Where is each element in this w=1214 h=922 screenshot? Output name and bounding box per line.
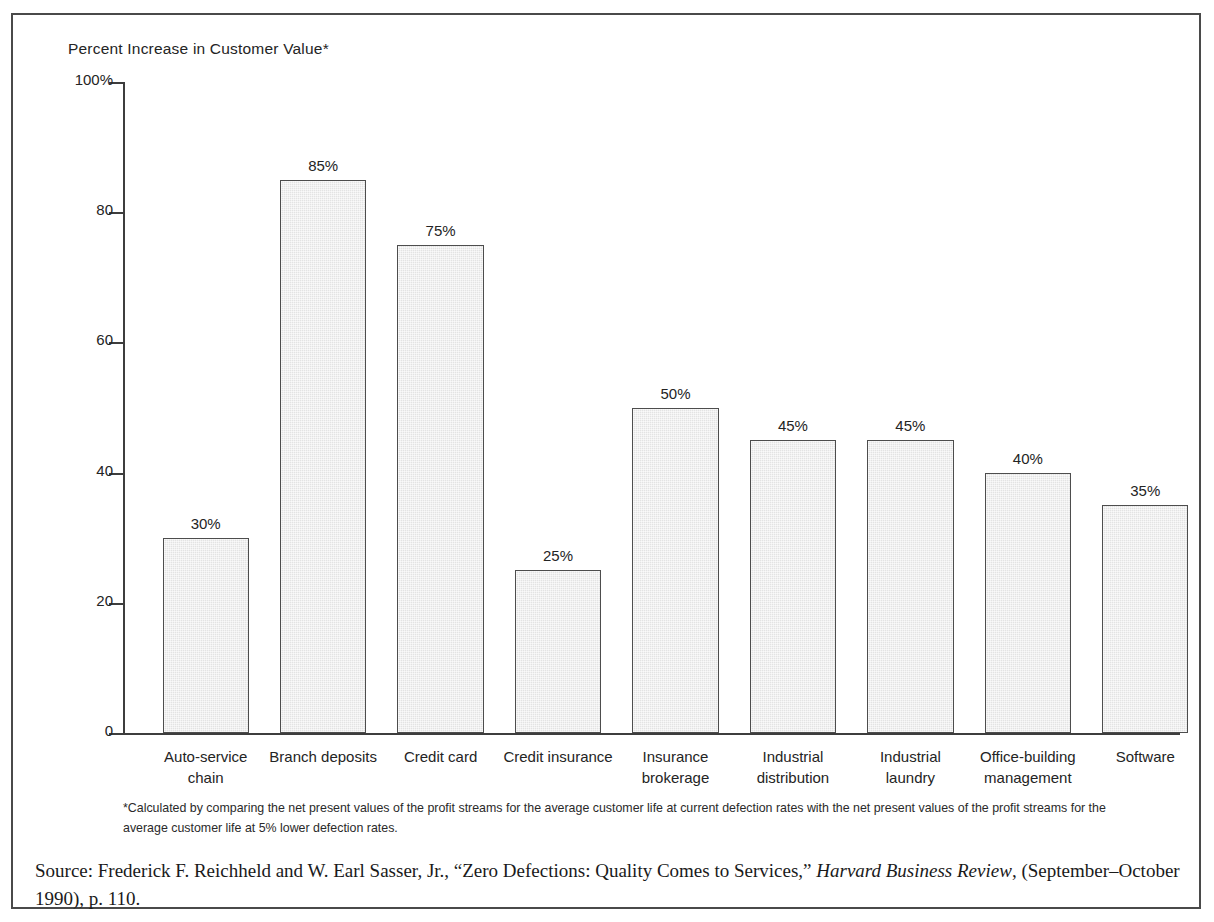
chart-title: Percent Increase in Customer Value* [68, 40, 329, 58]
category-label-line: Branch deposits [258, 746, 387, 767]
bar [163, 538, 249, 733]
category-label-line: laundry [846, 767, 975, 788]
x-axis-line [123, 733, 1180, 735]
category-label-line: Software [1081, 746, 1210, 767]
category-label-line: Auto-service [141, 746, 270, 767]
category-label-line: management [963, 767, 1092, 788]
y-axis-tick-label: 40 [96, 462, 113, 479]
category-label-line: Credit card [376, 746, 505, 767]
category-label: Credit card [376, 746, 505, 767]
bar-column: 30% [163, 82, 249, 733]
bar-value-label: 75% [397, 222, 483, 239]
bar [867, 440, 953, 733]
bar-column: 35% [1102, 82, 1188, 733]
category-label-line: Office-building [963, 746, 1092, 767]
category-label-line: brokerage [611, 767, 740, 788]
y-axis-tick-label: 100% [75, 71, 113, 88]
chart-plot-area: 100%806040200 30%85%75%25%50%45%45%40%35… [123, 82, 1183, 733]
source-prefix: Source: Frederick F. Reichheld and W. Ea… [35, 860, 816, 881]
bar-value-label: 25% [515, 547, 601, 564]
footnote: *Calculated by comparing the net present… [123, 798, 1143, 838]
source-publication: Harvard Business Review [816, 860, 1012, 881]
category-label: Credit insurance [493, 746, 622, 767]
category-label-line: Industrial [728, 746, 857, 767]
category-label-line: Insurance [611, 746, 740, 767]
bar [280, 180, 366, 733]
bar-column: 45% [750, 82, 836, 733]
category-label-line: Industrial [846, 746, 975, 767]
category-label-line: distribution [728, 767, 857, 788]
bar-column: 85% [280, 82, 366, 733]
bar-column: 75% [397, 82, 483, 733]
category-label: Industrialdistribution [728, 746, 857, 788]
category-label: Branch deposits [258, 746, 387, 767]
bar-column: 45% [867, 82, 953, 733]
bar [397, 245, 483, 733]
bar [515, 570, 601, 733]
bar-value-label: 30% [163, 515, 249, 532]
bar-value-label: 50% [632, 385, 718, 402]
y-axis-tick-label: 20 [96, 592, 113, 609]
category-label-line: chain [141, 767, 270, 788]
exhibit-frame: Percent Increase in Customer Value* 100%… [11, 13, 1201, 909]
category-label: Software [1081, 746, 1210, 767]
bar-value-label: 40% [985, 450, 1071, 467]
bar [985, 473, 1071, 733]
category-label: Industriallaundry [846, 746, 975, 788]
source-citation: Source: Frederick F. Reichheld and W. Ea… [35, 857, 1185, 913]
y-axis-tick-label: 80 [96, 201, 113, 218]
bar-value-label: 45% [867, 417, 953, 434]
bar [632, 408, 718, 734]
bar-column: 50% [632, 82, 718, 733]
y-axis-line [123, 82, 125, 733]
category-label: Insurancebrokerage [611, 746, 740, 788]
category-label-line: Credit insurance [493, 746, 622, 767]
bar [1102, 505, 1188, 733]
bar-value-label: 35% [1102, 482, 1188, 499]
bar-column: 25% [515, 82, 601, 733]
bar-column: 40% [985, 82, 1071, 733]
category-label: Auto-servicechain [141, 746, 270, 788]
y-axis-tick-label: 60 [96, 331, 113, 348]
bar-value-label: 85% [280, 157, 366, 174]
category-label: Office-buildingmanagement [963, 746, 1092, 788]
bar-value-label: 45% [750, 417, 836, 434]
bar [750, 440, 836, 733]
y-axis-tick-label: 0 [105, 722, 113, 739]
